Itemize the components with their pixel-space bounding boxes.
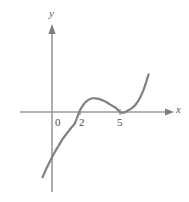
y-axis-arrowhead [48, 24, 55, 34]
x-axis-label: x [176, 104, 181, 115]
y-axis-label: y [49, 8, 54, 19]
x-tick-label-5: 5 [117, 117, 123, 128]
graph-figure: y x 0 2 5 [0, 0, 189, 202]
x-tick-label-0: 0 [55, 117, 61, 128]
x-tick-label-2: 2 [79, 117, 85, 128]
plot-canvas [0, 0, 189, 202]
x-axis-arrowhead [165, 108, 174, 115]
